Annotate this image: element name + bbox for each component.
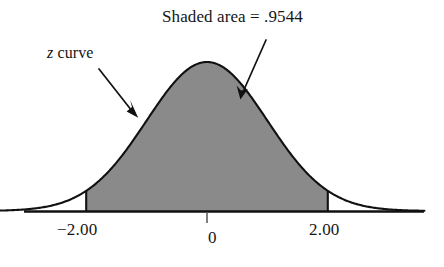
z-curve-word: curve <box>53 44 93 61</box>
z-curve-label: z curve <box>47 45 93 61</box>
shaded-area-region <box>86 62 328 211</box>
shaded-area-callout-arrow <box>237 40 266 100</box>
axis-tick-label-positive-two: 2.00 <box>309 221 340 238</box>
normal-curve-figure: Shaded area = .9544 z curve −2.00 0 2.00 <box>0 0 444 267</box>
shaded-area-title: Shaded area = .9544 <box>162 8 303 25</box>
axis-tick-label-negative-two: −2.00 <box>57 221 97 238</box>
z-curve-callout-arrow <box>99 69 138 118</box>
axis-tick-label-zero: 0 <box>208 229 217 246</box>
